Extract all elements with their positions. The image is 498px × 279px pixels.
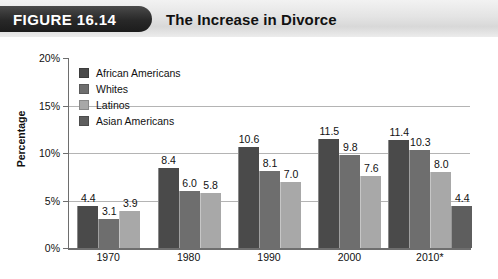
figure-number-label: FIGURE 16.14 (0, 11, 116, 28)
legend-item: Latinos (79, 98, 181, 112)
bar-value-label: 4.4 (455, 192, 470, 204)
bar[interactable]: 10.6 (238, 147, 259, 248)
y-axis-tick-labels: 0%5%10%15%20% (14, 58, 60, 249)
bar-value-label: 9.8 (343, 141, 358, 153)
legend-item: African Americans (79, 66, 181, 80)
bar-value-label: 3.9 (123, 197, 138, 209)
bar-value-label: 11.5 (320, 125, 340, 137)
x-axis-line (68, 248, 471, 250)
legend-swatch-icon (79, 68, 89, 78)
legend-item: Asian Americans (79, 114, 181, 128)
y-axis-label: 5% (18, 196, 60, 206)
legend-swatch-icon (79, 100, 89, 110)
legend-label: Asian Americans (96, 115, 174, 127)
figure-header-band: FIGURE 16.14 The Increase in Divorce (0, 0, 498, 37)
bar-value-label: 3.1 (102, 205, 117, 217)
bar-group: 10.68.17.0 (238, 58, 300, 248)
bar[interactable]: 7.0 (280, 182, 301, 249)
bar[interactable]: 4.4 (451, 206, 472, 248)
legend-item: Whites (79, 82, 181, 96)
bar-value-label: 11.4 (389, 126, 409, 138)
legend-swatch-icon (79, 84, 89, 94)
y-axis-label: 20% (18, 53, 60, 63)
bar[interactable]: 10.3 (409, 150, 430, 248)
legend-label: Whites (96, 83, 128, 95)
bar-value-label: 8.4 (161, 154, 176, 166)
x-axis-label: 1990 (229, 251, 309, 263)
x-axis-label: 1980 (148, 251, 228, 263)
chart-legend: African AmericansWhitesLatinosAsian Amer… (79, 66, 181, 128)
bar[interactable]: 3.9 (119, 211, 140, 248)
bar[interactable]: 7.6 (360, 176, 381, 248)
chart-container: Percentage 0%5%10%15%20% 4.43.13.98.46.0… (0, 37, 498, 279)
legend-swatch-icon (79, 116, 89, 126)
bar-value-label: 7.0 (284, 168, 299, 180)
y-axis-label: 15% (18, 101, 60, 111)
legend-label: African Americans (96, 67, 181, 79)
figure-title: The Increase in Divorce (166, 6, 337, 32)
bar-value-label: 6.0 (182, 177, 197, 189)
bar-value-label: 8.1 (263, 157, 278, 169)
bar-group: 11.59.87.6 (318, 58, 380, 248)
bar[interactable]: 8.0 (430, 172, 451, 248)
bar[interactable]: 8.1 (259, 171, 280, 248)
bar-group: 11.410.38.04.4 (388, 58, 471, 248)
bar-value-label: 7.6 (364, 162, 379, 174)
x-axis-label: 2000 (309, 251, 389, 263)
bar[interactable]: 9.8 (339, 155, 360, 248)
x-axis-label: 1970 (68, 251, 148, 263)
bar[interactable]: 3.1 (98, 219, 119, 248)
bar[interactable]: 11.5 (318, 139, 339, 248)
y-axis-label: 10% (18, 148, 60, 158)
bar-value-label: 10.6 (239, 133, 259, 145)
x-axis-label: 2010* (390, 251, 470, 263)
legend-label: Latinos (96, 99, 130, 111)
bar-value-label: 8.0 (434, 158, 449, 170)
bar-value-label: 10.3 (410, 136, 430, 148)
bar[interactable]: 5.8 (200, 193, 221, 248)
bar-value-label: 5.8 (203, 179, 218, 191)
figure-number-tab: FIGURE 16.14 (0, 6, 152, 32)
bar[interactable]: 4.4 (77, 206, 98, 248)
bar[interactable]: 6.0 (179, 191, 200, 248)
y-axis-label: 0% (18, 243, 60, 253)
bar[interactable]: 11.4 (388, 140, 409, 248)
bar-value-label: 4.4 (81, 192, 96, 204)
bar[interactable]: 8.4 (158, 168, 179, 248)
